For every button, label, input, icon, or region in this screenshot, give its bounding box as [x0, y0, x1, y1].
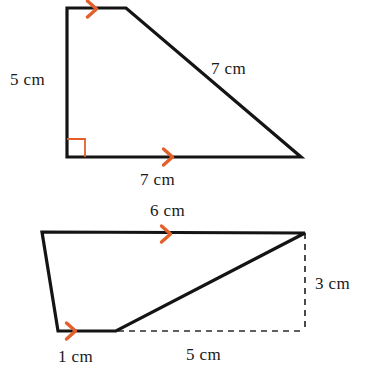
- right-angle-marker: [67, 139, 85, 157]
- top-side-label: 6 cm: [150, 201, 185, 220]
- short-base-label: 1 cm: [58, 347, 93, 366]
- shape-irregular-quadrilateral-bottom: 6 cm 3 cm 1 cm 5 cm: [42, 201, 350, 366]
- right-trapezoid-outline: [67, 8, 301, 157]
- shape-right-trapezoid-top: 5 cm 7 cm 7 cm: [10, 1, 301, 189]
- irregular-quadrilateral-outline: [42, 232, 305, 331]
- dashed-base-label: 5 cm: [186, 345, 221, 364]
- slant-side-label: 7 cm: [211, 59, 246, 78]
- height-label: 3 cm: [315, 274, 350, 293]
- figure-canvas: 5 cm 7 cm 7 cm 6 cm 3 cm 1 cm 5 cm: [0, 0, 366, 373]
- bottom-side-label: 7 cm: [140, 170, 175, 189]
- geometry-diagram: 5 cm 7 cm 7 cm 6 cm 3 cm 1 cm 5 cm: [0, 0, 366, 373]
- left-side-label: 5 cm: [10, 70, 45, 89]
